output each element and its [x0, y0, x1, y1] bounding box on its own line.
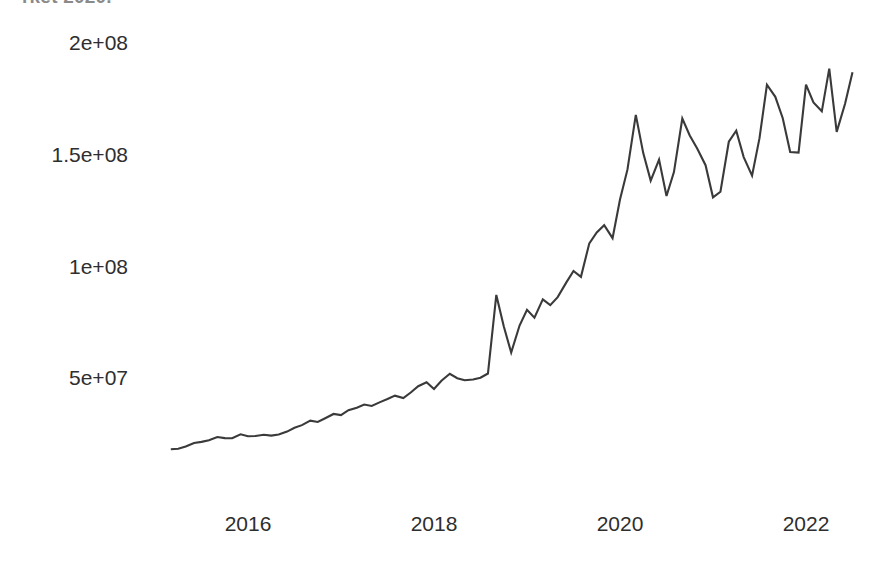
plot-area: 2e+08 1.5e+08 1e+08 5e+07 2016 2018 2020…: [0, 0, 890, 561]
chart-screenshot: rket 2020. 2e+08 1.5e+08 1e+08 5e+07 201…: [0, 0, 890, 561]
line-series-svg: [0, 0, 890, 561]
line-series-path: [171, 69, 853, 450]
